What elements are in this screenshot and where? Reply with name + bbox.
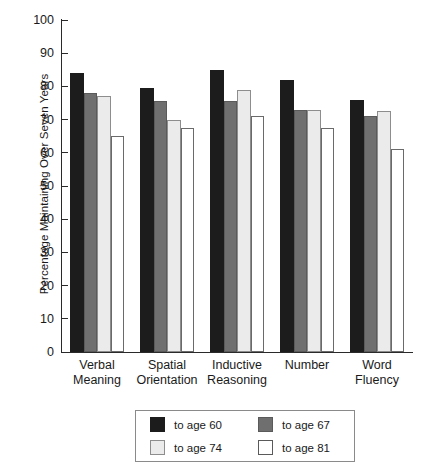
category-label: WordFluency [322,358,432,388]
category-label-line: Reasoning [182,373,292,388]
y-tick-label-70: 70 [8,113,54,127]
category-label-line: Fluency [322,373,432,388]
bars-layer [62,20,412,352]
y-tick-label-100: 100 [8,13,54,27]
legend-item-to-age-81: to age 81 [258,440,330,455]
bar [210,70,224,352]
y-tick-label-60: 60 [8,146,54,160]
bar [237,90,251,352]
y-tick-label-90: 90 [8,46,54,60]
bar [154,101,168,352]
bar [280,80,294,352]
y-tick-label-10: 10 [8,312,54,326]
bar [224,101,238,352]
legend-item-to-age-67: to age 67 [258,417,330,432]
x-axis-line [61,352,413,353]
legend-label-to-age-74: to age 74 [174,442,222,454]
bar [140,88,154,352]
bar [251,116,265,352]
legend: to age 60 to age 67 to age 74 to age 81 [135,410,355,462]
legend-swatch-to-age-74 [150,440,165,455]
y-tick-label-30: 30 [8,245,54,259]
y-tick-label-0: 0 [8,345,54,359]
bar [111,136,125,352]
bar [364,116,378,352]
legend-label-to-age-60: to age 60 [174,419,222,431]
bar [167,120,181,352]
bar [97,96,111,352]
bar [181,128,195,352]
y-tick-label-20: 20 [8,279,54,293]
y-tick-label-50: 50 [8,179,54,193]
bar [84,93,98,352]
bar [294,110,308,352]
legend-label-to-age-81: to age 81 [282,442,330,454]
bar [70,73,84,352]
bar-chart: Percentage Maintaining Over Seven Years … [0,0,432,470]
legend-swatch-to-age-81 [258,440,273,455]
bar [307,110,321,352]
y-tick-label-80: 80 [8,79,54,93]
y-tick-label-40: 40 [8,212,54,226]
bar [391,149,405,352]
legend-swatch-to-age-60 [150,417,165,432]
bar [321,128,335,352]
bar [350,100,364,352]
bar [377,111,391,352]
legend-item-to-age-74: to age 74 [150,440,222,455]
legend-swatch-to-age-67 [258,417,273,432]
category-label-line: Word [322,358,432,373]
legend-item-to-age-60: to age 60 [150,417,222,432]
legend-label-to-age-67: to age 67 [282,419,330,431]
